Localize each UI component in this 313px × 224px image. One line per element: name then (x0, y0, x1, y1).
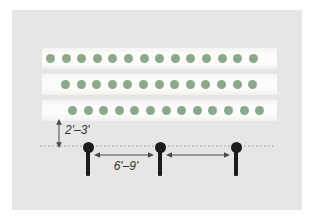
stake-head-icon (231, 142, 242, 153)
post-spacing-label: 6'–9' (104, 160, 148, 173)
annotation-layer (12, 10, 302, 210)
post-spacing-arrow-left (94, 152, 154, 157)
row-offset-label: 2'–3' (65, 124, 90, 137)
post-spacing-arrow-right (166, 152, 230, 157)
diagram-panel: 2'–3' 6'–9' (12, 10, 302, 210)
stake-head-icon (83, 142, 94, 153)
row-offset-arrow (56, 119, 62, 148)
stake-head-icon (155, 142, 166, 153)
